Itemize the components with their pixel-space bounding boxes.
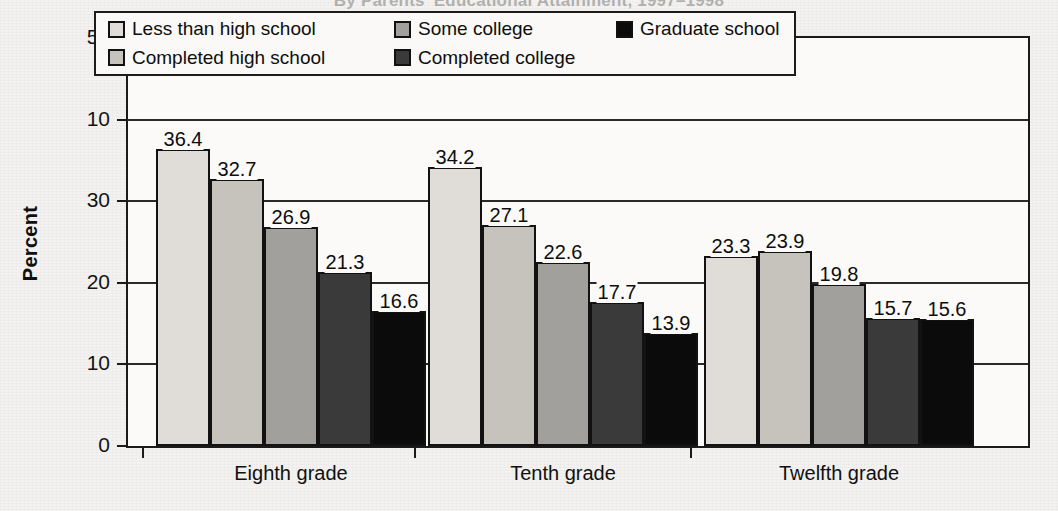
- bar-column: 21.3: [318, 38, 372, 446]
- bar[interactable]: 26.9: [264, 227, 318, 447]
- legend-item[interactable]: Completed high school: [108, 47, 394, 69]
- bar-column: 27.1: [482, 38, 536, 446]
- bar-column: 23.3: [704, 38, 758, 446]
- bar-group: 23.323.919.815.715.6: [704, 38, 974, 446]
- legend-item[interactable]: Less than high school: [108, 18, 394, 40]
- bar-column: 19.8: [812, 38, 866, 446]
- legend-swatch-icon: [616, 21, 633, 38]
- bar-value-label: 21.3: [325, 252, 366, 273]
- bar[interactable]: 21.3: [318, 272, 372, 446]
- x-tick-label: Eighth grade: [161, 462, 421, 485]
- legend-item[interactable]: Graduate school: [616, 18, 794, 40]
- legend-item-label: Graduate school: [640, 18, 779, 40]
- x-tick-mark: [690, 448, 692, 458]
- y-tick-label: 20: [48, 270, 110, 294]
- plot-area: 36.432.726.921.316.634.227.122.617.713.9…: [126, 36, 1030, 448]
- x-tick-mark: [414, 448, 416, 458]
- bar-column: 23.9: [758, 38, 812, 446]
- legend-item-label: Less than high school: [132, 18, 316, 40]
- bar-group: 34.227.122.617.713.9: [428, 38, 698, 446]
- bar[interactable]: 36.4: [156, 149, 210, 446]
- bar[interactable]: 23.9: [758, 251, 812, 446]
- chart-legend: Less than high schoolSome collegeGraduat…: [94, 11, 796, 76]
- bar[interactable]: 27.1: [482, 225, 536, 446]
- bar-value-label: 13.9: [651, 313, 692, 334]
- bar-value-label: 16.6: [379, 291, 420, 312]
- bar-value-label: 36.4: [163, 129, 204, 150]
- bar-column: 26.9: [264, 38, 318, 446]
- bar-value-label: 34.2: [435, 147, 476, 168]
- bar-column: 22.6: [536, 38, 590, 446]
- bar-column: 15.7: [866, 38, 920, 446]
- x-tick-label: Twelfth grade: [709, 462, 969, 485]
- bar-column: 13.9: [644, 38, 698, 446]
- legend-swatch-icon: [108, 21, 125, 38]
- bar[interactable]: 23.3: [704, 256, 758, 446]
- legend-item[interactable]: Some college: [394, 18, 616, 40]
- bar-value-label: 17.7: [597, 282, 638, 303]
- bar[interactable]: 15.7: [866, 318, 920, 446]
- bar[interactable]: 13.9: [644, 333, 698, 446]
- y-axis-title: Percent: [19, 174, 42, 314]
- legend-swatch-icon: [394, 21, 411, 38]
- legend-item-label: Completed high school: [132, 47, 325, 69]
- y-tick-label: 10: [48, 351, 110, 375]
- bar-group: 36.432.726.921.316.6: [156, 38, 426, 446]
- bar-column: 32.7: [210, 38, 264, 446]
- legend-swatch-icon: [394, 49, 411, 66]
- bar-value-label: 15.7: [873, 298, 914, 319]
- legend-swatch-icon: [108, 49, 125, 66]
- bar-value-label: 26.9: [271, 207, 312, 228]
- y-tick-label: 10: [48, 107, 110, 131]
- y-tick-label: 0: [48, 433, 110, 457]
- y-tick-label: 30: [48, 188, 110, 212]
- bar-value-label: 22.6: [543, 242, 584, 263]
- bar-value-label: 23.3: [711, 236, 752, 257]
- chart-page: By Parents' Educational Attainment, 1997…: [0, 0, 1058, 511]
- bar-value-label: 19.8: [819, 264, 860, 285]
- legend-item[interactable]: Completed college: [394, 47, 616, 69]
- bar[interactable]: 15.6: [920, 319, 974, 446]
- legend-item-label: Completed college: [418, 47, 575, 69]
- bar[interactable]: 17.7: [590, 302, 644, 446]
- bar-column: 17.7: [590, 38, 644, 446]
- bar[interactable]: 22.6: [536, 262, 590, 446]
- bar[interactable]: 32.7: [210, 179, 264, 446]
- bar-value-label: 27.1: [489, 205, 530, 226]
- bar-column: 16.6: [372, 38, 426, 446]
- bar-column: 34.2: [428, 38, 482, 446]
- bar-value-label: 15.6: [927, 299, 968, 320]
- bar[interactable]: 34.2: [428, 167, 482, 446]
- x-tick-mark: [142, 448, 144, 458]
- legend-item-label: Some college: [418, 18, 533, 40]
- bar[interactable]: 19.8: [812, 284, 866, 446]
- bar-value-label: 23.9: [765, 231, 806, 252]
- bar-value-label: 32.7: [217, 159, 258, 180]
- bar-column: 15.6: [920, 38, 974, 446]
- x-tick-label: Tenth grade: [433, 462, 693, 485]
- bar-column: 36.4: [156, 38, 210, 446]
- bar[interactable]: 16.6: [372, 311, 426, 446]
